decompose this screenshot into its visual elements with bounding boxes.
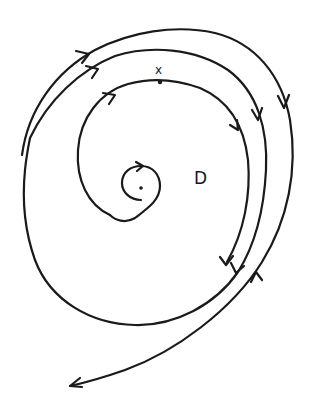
inner-arrow-2-icon [230,120,238,130]
point-x-label: x [155,63,162,77]
middle-arrow-1-icon [86,66,98,78]
inner-trajectory [78,80,249,262]
equilibrium-point [139,186,143,190]
middle-trajectory [24,50,266,325]
phase-portrait-diagram: x D [0,0,311,411]
outer-arrow-3-icon [251,272,262,282]
region-d-label: D [194,168,207,188]
outer-trajectory [22,29,293,386]
point-x-marker [158,80,162,84]
center-spiral [110,166,160,221]
